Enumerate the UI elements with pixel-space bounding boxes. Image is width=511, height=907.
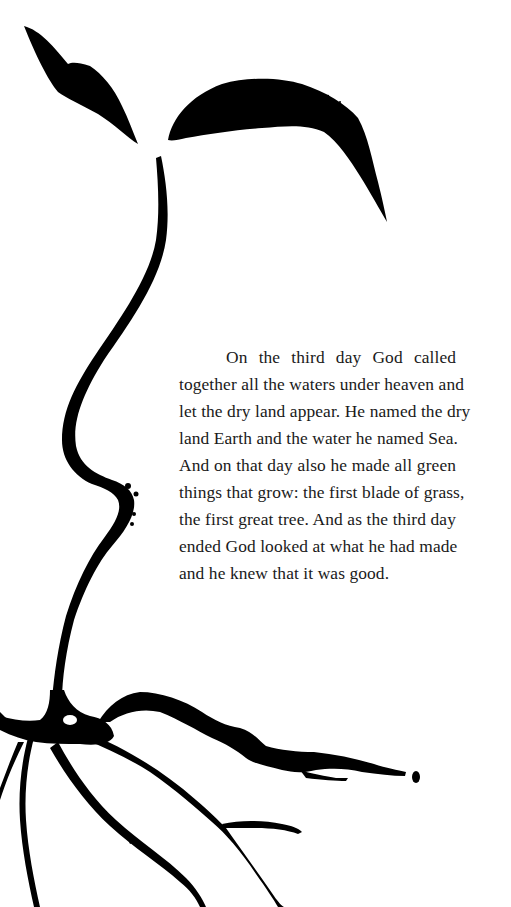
book-page: On the third day God called together all… (0, 0, 511, 907)
passage-line: the first great tree. And as the third d… (179, 506, 456, 533)
passage-line: things that grow: the first blade of gra… (179, 479, 456, 506)
passage-line: land Earth and the water he named Sea. (179, 425, 456, 452)
root-tip-blot (412, 771, 420, 783)
stem (52, 156, 168, 700)
passage-line: together all the waters under heaven and (179, 371, 456, 398)
root-lower (50, 742, 206, 907)
story-passage: On the third day God called together all… (179, 344, 456, 587)
root-crown (0, 690, 114, 745)
passage-line: and he knew that it was good. (179, 560, 456, 587)
passage-line: And on that day also he made all green (179, 452, 456, 479)
right-leaf (168, 79, 387, 222)
passage-line: let the dry land appear. He named the dr… (179, 398, 456, 425)
root-left (19, 738, 40, 907)
root-middle-branch (222, 821, 302, 834)
passage-line: On the third day God called (179, 344, 456, 371)
left-leaf (24, 26, 138, 144)
passage-line: ended God looked at what he had made (179, 533, 456, 560)
